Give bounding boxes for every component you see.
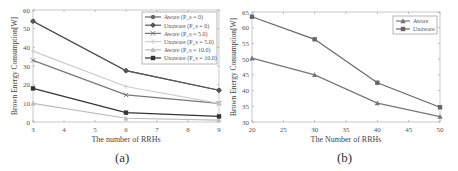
y-tick-label: 60 [23,7,31,15]
legend-entry: Aware (P_s = 10.0) [164,47,211,54]
x-tick-label: 20 [249,126,257,134]
x-tick-label: 3 [31,126,35,134]
x-tick-label: 45 [405,126,413,134]
x-tick-label: 9 [217,126,221,134]
y-tick-label: 60 [242,24,250,32]
y-tick-label: 40 [23,44,31,52]
figure: 34567890102030405060The number of RRHsBr… [0,0,458,171]
legend: AwareUnaware [393,16,437,34]
x-tick-label: 40 [374,126,382,134]
x-tick-label: 4 [62,126,66,134]
x-tick-label: 7 [155,126,159,134]
x-tick-label: 25 [280,126,288,134]
y-tick-label: 50 [23,25,31,33]
panel-label-b: (b) [337,150,352,166]
panel-label-a: (a) [115,150,129,166]
x-tick-label: 30 [311,126,319,134]
y-tick-label: 20 [23,81,31,89]
legend-entry: Aware (P_s = 5.0) [164,31,208,38]
y-axis-label: Brown Energy Consumption[W] [229,18,238,116]
y-tick-label: 35 [242,103,250,111]
x-tick-label: 35 [343,126,351,134]
x-tick-label: 5 [93,126,97,134]
legend-entry: Unaware [413,26,435,32]
x-tick-label: 8 [186,126,190,134]
y-tick-label: 10 [23,100,31,108]
y-tick-label: 50 [242,56,250,64]
legend-entry: Aware (P_s = 0) [164,14,203,21]
x-tick-label: 6 [124,126,128,134]
y-tick-label: 65 [242,9,250,17]
legend-entry: Unaware (P_s = 0) [164,23,209,30]
x-tick-label: 50 [437,126,445,134]
y-tick-label: 30 [23,63,31,71]
y-tick-label: 45 [242,71,250,79]
y-tick-label: 30 [242,119,250,127]
chart-panel-b: 202530354045503035404550556065The Number… [229,9,444,145]
x-axis-label: The Number of RRHs [311,135,382,144]
y-tick-label: 0 [27,119,31,127]
y-axis-label: Brown Energy Consumption[W] [10,17,19,115]
y-tick-label: 40 [242,87,250,95]
legend-entry: Unaware (P_s = 5.0) [164,39,214,46]
legend: Aware (P_s = 0)Unaware (P_s = 0)Aware (P… [142,12,217,64]
legend-entry: Unaware (P_s = 10.0) [164,55,217,62]
legend-entry: Aware [413,18,429,24]
y-tick-label: 55 [242,40,250,48]
x-axis-label: The number of RRHs [91,135,160,144]
chart-panel-a: 34567890102030405060The number of RRHsBr… [10,7,222,145]
